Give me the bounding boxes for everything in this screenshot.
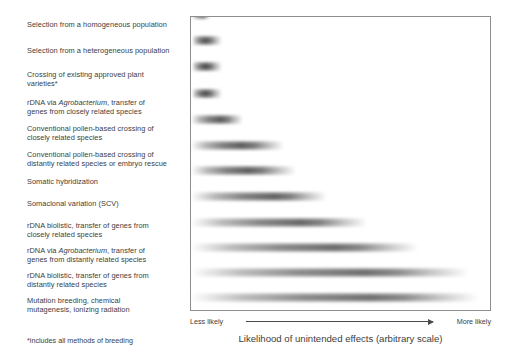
category-label: rDNA via Agrobacterium, transfer ofgenes… (27, 246, 187, 265)
category-label: rDNA biolistic, transfer of genes fromdi… (27, 271, 187, 290)
likelihood-band (191, 267, 469, 278)
axis-scale: Less likely More likely (190, 316, 491, 328)
likelihood-band (191, 114, 243, 125)
likelihood-band (191, 140, 284, 151)
category-label-column: Selection from a homogeneous populationS… (0, 0, 190, 311)
category-label: rDNA via Agrobacterium, transfer ofgenes… (27, 98, 187, 117)
likelihood-band (191, 217, 367, 228)
likelihood-band (192, 16, 210, 20)
likelihood-band (192, 88, 222, 99)
right-arrow-icon (246, 321, 433, 322)
plot-area (190, 16, 491, 311)
likelihood-band (191, 242, 418, 253)
likelihood-band (191, 165, 296, 176)
likelihood-band (192, 61, 222, 72)
category-label: Crossing of existing approved plantvarie… (27, 70, 187, 89)
likelihood-band (192, 35, 222, 46)
category-label: Mutation breeding, chemicalmutagenesis, … (27, 296, 187, 315)
category-label: Conventional pollen-based crossing ofclo… (27, 124, 187, 143)
axis-left-label: Less likely (190, 316, 223, 327)
category-label: Selection from a heterogeneous populatio… (27, 46, 187, 55)
likelihood-band (191, 191, 327, 202)
category-label: Somatic hybridization (27, 177, 187, 186)
category-label: Conventional pollen-based crossing ofdis… (27, 150, 187, 169)
axis-right-label: More likely (457, 316, 491, 327)
likelihood-band (191, 292, 478, 303)
category-label: rDNA biolistic, transfer of genes fromcl… (27, 221, 187, 240)
likelihood-figure: Selection from a homogeneous populationS… (0, 0, 513, 357)
category-label: Somaclonal variation (SCV) (27, 199, 187, 208)
category-label: Selection from a homogeneous population (27, 20, 187, 29)
axis-caption: Likelihood of unintended effects (arbitr… (190, 333, 491, 344)
footnote-text: *includes all methods of breeding (27, 336, 133, 345)
